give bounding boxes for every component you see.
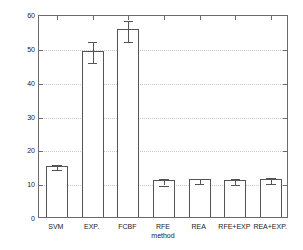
- y-tick-mark: [283, 185, 287, 186]
- y-tick-mark: [283, 84, 287, 85]
- x-tick-label: RFE+EXP: [218, 223, 250, 230]
- x-tick-label: REA+EXP.: [253, 223, 287, 230]
- y-tick-label: 40: [27, 79, 35, 86]
- error-bar-cap: [124, 21, 133, 22]
- x-tick-label: FCBF: [118, 223, 136, 230]
- y-tick-mark: [283, 151, 287, 152]
- x-tick-label: EXP.: [84, 223, 99, 230]
- x-tick-mark: [164, 16, 165, 20]
- gridline: [39, 50, 287, 51]
- y-tick-mark: [283, 118, 287, 119]
- gridline: [39, 118, 287, 119]
- error-bar-cap: [266, 178, 275, 179]
- error-bar-cap: [195, 179, 204, 180]
- x-tick-label: SVM: [48, 223, 63, 230]
- gridline: [39, 151, 287, 152]
- y-tick-mark: [39, 84, 43, 85]
- error-bar-cap: [195, 184, 204, 185]
- error-bar-cap: [88, 42, 97, 43]
- x-tick-mark: [271, 16, 272, 20]
- y-tick-label: 10: [27, 181, 35, 188]
- error-bar-cap: [266, 184, 275, 185]
- error-bar: [128, 21, 129, 42]
- bar: [117, 29, 139, 217]
- y-tick-label: 0: [31, 215, 35, 222]
- error-bar-cap: [124, 42, 133, 43]
- x-axis-label: method: [38, 232, 288, 239]
- y-tick-mark: [39, 185, 43, 186]
- error-bar: [93, 42, 94, 63]
- error-bar-cap: [159, 179, 168, 180]
- error-bar-cap: [159, 186, 168, 187]
- error-bar-cap: [52, 170, 61, 171]
- x-tick-label: RFE: [156, 223, 170, 230]
- x-tick-label: REA: [192, 223, 206, 230]
- y-tick-label: 20: [27, 147, 35, 154]
- x-tick-mark: [200, 16, 201, 20]
- error-bar-cap: [231, 179, 240, 180]
- x-tick-mark: [128, 16, 129, 20]
- error-bar-cap: [88, 63, 97, 64]
- chart-figure: mean squared error × 10−3 0102030405060 …: [0, 0, 303, 250]
- y-tick-label: 60: [27, 12, 35, 19]
- bar: [46, 166, 68, 217]
- y-tick-mark: [39, 118, 43, 119]
- x-tick-mark: [93, 16, 94, 20]
- error-bar-cap: [52, 165, 61, 166]
- gridline: [39, 84, 287, 85]
- y-tick-mark: [39, 50, 43, 51]
- x-tick-mark: [57, 16, 58, 20]
- y-tick-mark: [283, 50, 287, 51]
- y-tick-label: 30: [27, 113, 35, 120]
- x-tick-mark: [235, 16, 236, 20]
- plot-area: [38, 15, 288, 218]
- error-bar-cap: [231, 185, 240, 186]
- y-tick-label: 50: [27, 45, 35, 52]
- y-tick-mark: [39, 151, 43, 152]
- bar: [82, 51, 104, 217]
